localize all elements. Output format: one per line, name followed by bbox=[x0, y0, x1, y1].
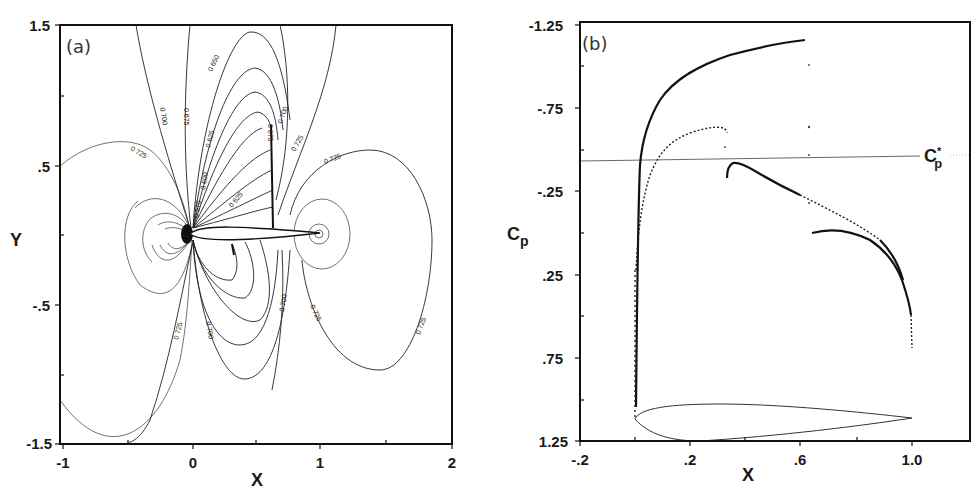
y-axis-title-a: Y bbox=[10, 230, 22, 250]
contour-label: 0 725 bbox=[309, 303, 323, 322]
panel-tag-b: (b) bbox=[582, 33, 607, 54]
contour-label: 0 575 bbox=[192, 200, 202, 219]
contour-label: 0 725 bbox=[172, 321, 183, 340]
panel-b-cp-plot: -1.25 -.75 -.25 .25 .75 1.25 -.2 .2 .6 1… bbox=[507, 17, 970, 485]
lower-post-shock-curve bbox=[727, 163, 800, 195]
contour-label: 0 700 bbox=[278, 294, 288, 313]
figure: 0 700 0 675 0 650 0 625 0 600 0 575 0 62… bbox=[0, 0, 976, 489]
x-tick-label: .6 bbox=[794, 451, 807, 468]
y-tick-label: -.5 bbox=[32, 297, 50, 314]
panel-a-contour-plot: 0 700 0 675 0 650 0 625 0 600 0 575 0 62… bbox=[10, 17, 456, 489]
y-tick-label: .5 bbox=[37, 158, 50, 175]
y-tick-label: .25 bbox=[542, 267, 563, 284]
y-tick-label: -.25 bbox=[537, 183, 563, 200]
y-tick-label: -1.5 bbox=[26, 435, 52, 452]
contour-label: 0 725 bbox=[323, 152, 342, 165]
y-tick-label: -.75 bbox=[537, 100, 563, 117]
airfoil-b bbox=[635, 404, 912, 441]
x-tick-label: 2 bbox=[448, 454, 456, 471]
x-tick-label: -1 bbox=[56, 454, 69, 471]
y-tick-label: 1.5 bbox=[29, 17, 50, 34]
upper-post-shock-curve bbox=[812, 230, 911, 315]
x-tick-label: 1 bbox=[316, 454, 324, 471]
lower-surface-cp-curve bbox=[636, 127, 727, 270]
lower-post-shock-dotted bbox=[800, 195, 880, 240]
cp-star-label: C*p bbox=[924, 145, 942, 171]
contour-label: 0 650 bbox=[207, 53, 221, 72]
contour-label: 0 625 bbox=[227, 191, 244, 209]
contour-label: 0 675 bbox=[267, 124, 274, 142]
y-axis-title-b: Cp bbox=[507, 224, 529, 249]
contour-labels: 0 700 0 675 0 650 0 625 0 600 0 575 0 62… bbox=[130, 53, 427, 340]
x-axis-title-a: X bbox=[251, 470, 263, 489]
x-tick-label: .2 bbox=[684, 451, 697, 468]
y-tick-label: 1.25 bbox=[539, 433, 568, 450]
contour-label: 0 725 bbox=[414, 316, 427, 335]
panel-tag-a: (a) bbox=[66, 36, 91, 57]
x-tick-label: -.2 bbox=[571, 451, 589, 468]
x-tick-label: 1.0 bbox=[902, 451, 923, 468]
contour-label: 0 700 bbox=[159, 107, 169, 126]
cp-star-reference-line bbox=[580, 156, 920, 161]
upper-surface-cp-curve bbox=[636, 40, 805, 407]
y-tick-label: -1.25 bbox=[529, 17, 563, 34]
airfoil-a bbox=[190, 227, 320, 240]
contour-label: 0 700 bbox=[205, 321, 215, 340]
x-tick-label: 0 bbox=[189, 454, 197, 471]
y-tick-label: .75 bbox=[542, 350, 563, 367]
shock-markers bbox=[724, 64, 810, 204]
x-axis-title-b: X bbox=[742, 465, 754, 485]
contour-label: 0 675 bbox=[183, 108, 190, 126]
trailing-edge-dotted bbox=[911, 315, 912, 348]
